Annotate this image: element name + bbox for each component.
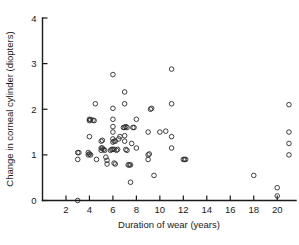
data-point [163, 129, 168, 134]
data-point [152, 173, 157, 178]
data-point [87, 134, 92, 139]
x-tick-label: 6 [110, 204, 115, 215]
axis-layer [43, 18, 297, 201]
data-point [169, 101, 174, 106]
data-point [287, 102, 292, 107]
data-point [111, 130, 116, 135]
x-tick-label: 14 [202, 204, 213, 215]
y-tick-label: 1 [31, 149, 36, 160]
x-tick-label: 4 [87, 204, 92, 215]
data-points-layer [75, 67, 291, 203]
data-point [94, 157, 99, 162]
data-point [134, 146, 139, 151]
data-point [122, 101, 127, 106]
y-tick-label: 2 [31, 104, 36, 115]
data-point [113, 162, 118, 167]
x-tick-label: 10 [155, 204, 166, 215]
data-point [111, 117, 116, 122]
x-tick-label: 12 [178, 204, 189, 215]
data-point [287, 130, 292, 135]
x-tick-label: 20 [272, 204, 283, 215]
x-tick-label: 2 [63, 204, 68, 215]
data-point [111, 124, 116, 129]
data-point [129, 141, 134, 146]
data-point [287, 153, 292, 158]
y-axis-title: Change in corneal cylinder (diopters) [4, 31, 15, 186]
data-point [251, 173, 256, 178]
y-tick-label: 0 [31, 195, 36, 206]
data-point [158, 130, 163, 135]
data-point [169, 67, 174, 72]
data-point [134, 117, 139, 122]
data-point [147, 152, 152, 157]
plot-canvas: 2468101214161820 01234 Duration of wear … [0, 0, 299, 245]
x-tick-layer: 2468101214161820 [63, 196, 282, 215]
data-point [275, 185, 280, 190]
data-point [75, 157, 80, 162]
data-point [128, 180, 133, 185]
x-axis-title: Duration of wear (years) [118, 219, 220, 230]
data-point [146, 157, 151, 162]
data-point [111, 72, 116, 77]
data-point [149, 106, 154, 111]
data-point [122, 139, 127, 144]
x-tick-label: 18 [248, 204, 259, 215]
data-point [287, 141, 292, 146]
data-point [125, 148, 130, 153]
y-tick-label: 3 [31, 58, 36, 69]
data-point [146, 130, 151, 135]
y-tick-layer: 01234 [31, 13, 47, 207]
data-point [111, 106, 116, 111]
data-point [100, 138, 105, 143]
data-point [122, 90, 127, 95]
data-point [93, 101, 98, 106]
data-point [122, 133, 127, 138]
data-point [169, 146, 174, 151]
y-tick-label: 4 [31, 13, 36, 24]
x-tick-label: 16 [225, 204, 236, 215]
data-point [169, 134, 174, 139]
x-tick-label: 8 [134, 204, 139, 215]
scatter-plot-figure: 2468101214161820 01234 Duration of wear … [0, 0, 299, 245]
